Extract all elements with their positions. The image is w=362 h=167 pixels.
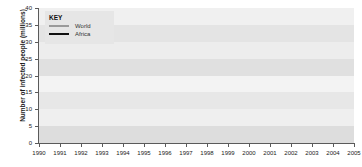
x-tick-mark — [186, 144, 187, 147]
y-tick-label: 30 — [14, 39, 32, 45]
y-tick-mark — [35, 76, 38, 77]
y-tick-mark — [35, 59, 38, 60]
x-tick-label: 2005 — [342, 150, 362, 156]
x-axis-line — [38, 143, 355, 144]
legend-swatch-africa — [49, 33, 69, 36]
y-tick-mark — [35, 42, 38, 43]
x-tick-mark — [249, 144, 250, 147]
x-tick-mark — [207, 144, 208, 147]
legend-label-africa: Africa — [75, 31, 90, 37]
y-tick-label: 20 — [14, 73, 32, 79]
x-tick-mark — [333, 144, 334, 147]
y-tick-label: 10 — [14, 106, 32, 112]
y-tick-mark — [35, 92, 38, 93]
y-tick-label: 0 — [14, 140, 32, 146]
background-band — [39, 126, 354, 143]
x-tick-mark — [39, 144, 40, 147]
y-tick-mark — [35, 126, 38, 127]
x-tick-mark — [270, 144, 271, 147]
y-tick-label: 25 — [14, 56, 32, 62]
y-tick-label: 35 — [14, 22, 32, 28]
y-tick-mark — [35, 143, 38, 144]
line-chart: Number of infected people (millions) 051… — [0, 0, 362, 167]
legend-item-africa: Africa — [49, 31, 111, 37]
y-tick-mark — [35, 25, 38, 26]
x-tick-mark — [354, 144, 355, 147]
y-tick-mark — [35, 109, 38, 110]
x-tick-mark — [312, 144, 313, 147]
x-tick-mark — [228, 144, 229, 147]
x-tick-mark — [165, 144, 166, 147]
y-axis-line — [38, 8, 39, 144]
y-axis-title: Number of infected people (millions) — [19, 0, 26, 136]
background-band — [39, 42, 354, 59]
legend-title: KEY — [49, 14, 111, 21]
y-tick-mark — [35, 8, 38, 9]
x-tick-mark — [291, 144, 292, 147]
y-tick-label: 15 — [14, 89, 32, 95]
y-tick-label: 5 — [14, 123, 32, 129]
legend-swatch-world — [49, 25, 69, 28]
x-tick-mark — [144, 144, 145, 147]
legend-label-world: World — [75, 23, 91, 29]
background-band — [39, 59, 354, 76]
background-band — [39, 109, 354, 126]
x-tick-mark — [60, 144, 61, 147]
x-tick-mark — [102, 144, 103, 147]
x-tick-mark — [123, 144, 124, 147]
x-tick-mark — [81, 144, 82, 147]
legend-item-world: World — [49, 23, 111, 29]
background-band — [39, 92, 354, 109]
y-tick-label: 40 — [14, 5, 32, 11]
legend: KEY World Africa — [45, 11, 114, 44]
background-band — [39, 76, 354, 93]
